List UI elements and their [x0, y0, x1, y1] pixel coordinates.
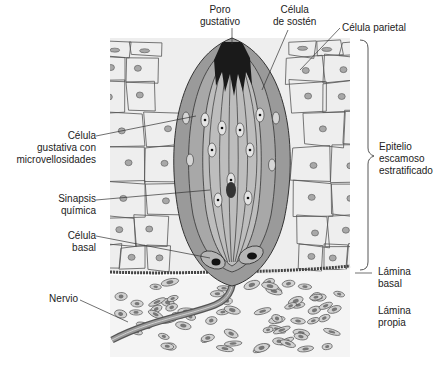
cell-nucleus: [347, 195, 354, 201]
label-nerve: Nervio: [8, 293, 78, 305]
cell-nucleus: [338, 94, 345, 100]
parietal-cell-nucleus: [269, 159, 276, 171]
nucleolus: [221, 127, 224, 130]
nucleolus: [247, 197, 250, 200]
cell-nucleus: [319, 126, 326, 132]
cell-nucleus: [347, 163, 354, 169]
cell-nucleus: [352, 48, 362, 52]
nucleolus: [217, 199, 220, 202]
nucleolus: [204, 119, 207, 122]
label-chemical-synapse: Sinapsis química: [8, 193, 96, 217]
cell-nucleus: [308, 194, 315, 200]
label-pore: Poro gustativo: [200, 4, 240, 28]
label-basal-cell: Célula basal: [8, 230, 96, 254]
cell-nucleus: [125, 160, 132, 166]
cell-nucleus: [140, 49, 150, 53]
nucleolus: [211, 149, 214, 152]
label-support-cell: Célula de sostén: [273, 4, 316, 28]
label-basal-lamina: Lámina basal: [378, 266, 411, 290]
label-lamina-propria: Lámina propia: [378, 305, 411, 329]
cell-nucleus: [305, 93, 312, 99]
cell-nucleus: [136, 92, 143, 98]
dark-nucleus: [226, 182, 236, 198]
cell-nucleus: [146, 226, 153, 232]
cell-nucleus: [298, 46, 308, 50]
cell-nucleus: [110, 48, 120, 52]
cell-nucleus: [156, 255, 163, 261]
epithelium-bracket: [360, 40, 374, 270]
cell-nucleus: [322, 47, 332, 51]
cell-nucleus: [308, 253, 315, 259]
cell-nucleus: [128, 254, 135, 260]
cell-nucleus: [359, 257, 366, 263]
cell-nucleus: [329, 255, 336, 261]
parietal-cell-nucleus: [273, 112, 280, 124]
cell-nucleus: [342, 227, 349, 233]
cell-nucleus: [312, 230, 319, 236]
parietal-cell-nucleus: [187, 154, 194, 166]
nucleolus: [239, 129, 242, 132]
cell-nucleus: [107, 65, 114, 71]
cell-nucleus: [366, 126, 373, 132]
cell-nucleus: [134, 65, 141, 71]
cell-nucleus: [340, 67, 347, 73]
cell-nucleus: [310, 162, 317, 168]
label-gustatory-cell: Célula gustativa con microvellosidades: [8, 130, 96, 166]
cell-nucleus: [162, 198, 169, 204]
cell-nucleus: [116, 227, 123, 233]
nucleolus: [230, 179, 233, 182]
label-parietal-cell: Célula parietal: [342, 22, 406, 34]
nucleolus: [249, 149, 252, 152]
cell-nucleus: [102, 255, 109, 261]
label-epithelium: Epitelio escamoso estratificado: [379, 141, 433, 177]
cell-nucleus: [161, 160, 168, 166]
cell-nucleus: [164, 126, 171, 132]
cell-nucleus: [120, 195, 127, 201]
cell-nucleus: [105, 94, 112, 100]
nucleolus: [259, 114, 262, 117]
epithelial-cell: [346, 244, 375, 273]
cell-nucleus: [302, 67, 309, 73]
